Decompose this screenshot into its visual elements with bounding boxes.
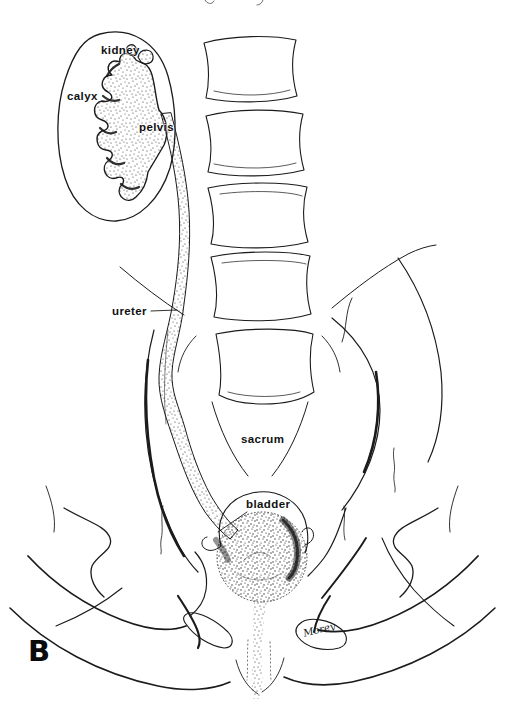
urethra-stream [247, 600, 271, 699]
ureter-tube [159, 113, 238, 539]
vertebra-3 [208, 183, 308, 248]
lumbar-spine [204, 37, 314, 404]
label-ureter: ureter [112, 305, 147, 317]
label-calyx: calyx [67, 90, 98, 102]
vertebra-2 [206, 110, 304, 176]
label-sacrum: sacrum [241, 433, 284, 445]
label-kidney: kidney [101, 44, 140, 56]
cropped-caption-marks [205, 0, 263, 5]
label-pelvis: pelvis [139, 121, 174, 133]
pelvis-bones [10, 245, 495, 694]
label-bladder: bladder [246, 498, 290, 510]
illustration-canvas: kidney calyx pelvis ureter sacrum bladde… [0, 0, 505, 702]
anatomical-illustration [0, 0, 505, 702]
panel-letter: B [28, 634, 50, 668]
